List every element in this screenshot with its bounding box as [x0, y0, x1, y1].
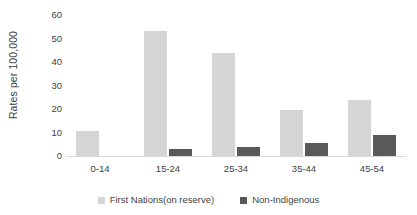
x-axis-tick: 0-14 — [66, 161, 134, 177]
bar-group — [270, 15, 338, 156]
bar-group — [66, 15, 134, 156]
y-axis-tick: 50 — [38, 34, 62, 44]
bar-chart: Rates per 100,000 6050403020100 0-1415-2… — [0, 0, 417, 215]
legend-swatch-icon — [240, 197, 247, 204]
bar[interactable] — [144, 31, 167, 156]
x-axis-line — [66, 156, 406, 157]
bar[interactable] — [348, 100, 371, 156]
bar[interactable] — [212, 53, 235, 156]
x-axis-tick-labels: 0-1415-2425-3435-4445-54 — [66, 161, 406, 177]
x-axis-tick: 25-34 — [202, 161, 270, 177]
y-axis-tick: 20 — [38, 104, 62, 114]
bar-group — [202, 15, 270, 156]
y-axis-tick: 0 — [38, 151, 62, 161]
y-axis-tick: 40 — [38, 57, 62, 67]
bar[interactable] — [305, 143, 328, 156]
bar[interactable] — [237, 147, 260, 156]
x-axis-tick: 35-44 — [270, 161, 338, 177]
y-axis-tick-labels: 6050403020100 — [38, 15, 62, 156]
legend-item-label: First Nations(on reserve) — [110, 195, 215, 205]
bar-group — [338, 15, 406, 156]
bar[interactable] — [373, 135, 396, 156]
y-axis-tick: 10 — [38, 128, 62, 138]
bar-groups — [66, 15, 406, 156]
bar-group — [134, 15, 202, 156]
legend-swatch-icon — [98, 197, 105, 204]
chart-legend: First Nations(on reserve)Non-Indigenous — [0, 191, 417, 209]
x-axis-tick: 45-54 — [338, 161, 406, 177]
y-axis-tick: 30 — [38, 81, 62, 91]
y-axis-title: Rates per 100,000 — [2, 0, 24, 150]
bar[interactable] — [76, 131, 99, 156]
legend-item[interactable]: First Nations(on reserve) — [98, 195, 215, 205]
legend-item-label: Non-Indigenous — [252, 195, 319, 205]
bar[interactable] — [280, 110, 303, 156]
x-axis-tick: 15-24 — [134, 161, 202, 177]
bar[interactable] — [169, 149, 192, 156]
y-axis-tick: 60 — [38, 10, 62, 20]
legend-item[interactable]: Non-Indigenous — [240, 195, 319, 205]
